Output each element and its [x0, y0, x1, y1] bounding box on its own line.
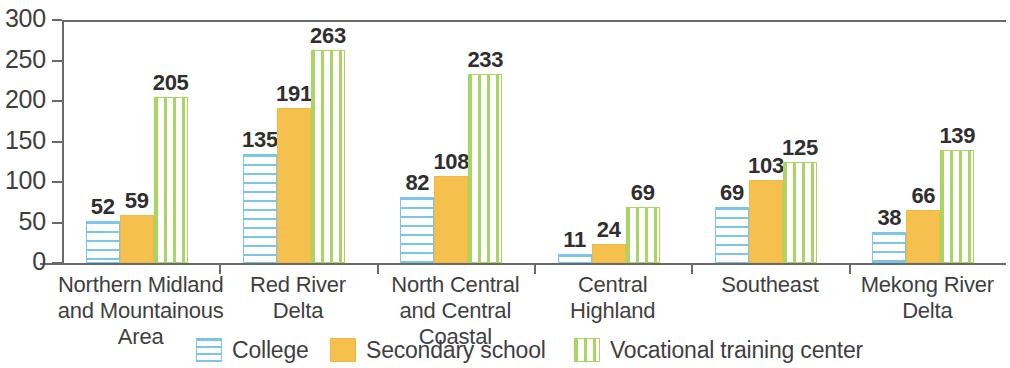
legend-label-college: College — [232, 337, 309, 364]
y-tick-label-200: 200 — [0, 85, 46, 114]
grouped-bar-chart: 300250200150100500 525920513519126382108… — [0, 0, 1010, 368]
bar-vocational-group-0 — [154, 97, 188, 263]
x-axis-line — [40, 263, 1006, 265]
category-label-5: Mekong River Delta — [835, 272, 1010, 324]
bar-secondary-group-1 — [277, 108, 311, 263]
college-swatch-icon — [196, 338, 222, 362]
bar-college-group-3 — [558, 254, 592, 263]
bar-college-group-5 — [872, 232, 906, 263]
bar-secondary-group-5 — [906, 210, 940, 263]
y-tick-250 — [52, 60, 62, 62]
y-tick-300 — [52, 19, 62, 21]
bar-vocational-group-3 — [626, 207, 660, 263]
bar-value-vocational-group-2: 233 — [458, 47, 512, 73]
bar-vocational-group-5 — [940, 150, 974, 263]
bar-value-vocational-group-1: 263 — [301, 23, 355, 49]
bar-college-group-2 — [400, 197, 434, 263]
chart-legend: CollegeSecondary schoolVocational traini… — [0, 336, 1010, 368]
bar-college-group-4 — [715, 207, 749, 263]
legend-item-secondary[interactable]: Secondary school — [330, 336, 546, 364]
bar-value-vocational-group-3: 69 — [616, 180, 670, 206]
y-tick-50 — [52, 222, 62, 224]
y-tick-200 — [52, 100, 62, 102]
y-tick-label-300: 300 — [0, 4, 46, 33]
y-tick-label-0: 0 — [0, 247, 46, 276]
bar-college-group-1 — [243, 154, 277, 263]
y-tick-0 — [52, 262, 62, 264]
bar-college-group-0 — [86, 221, 120, 263]
legend-item-college[interactable]: College — [196, 336, 309, 364]
bar-value-vocational-group-5: 139 — [930, 123, 984, 149]
vocational-swatch-icon — [574, 338, 600, 362]
bar-value-vocational-group-0: 205 — [144, 70, 198, 96]
bar-vocational-group-4 — [783, 162, 817, 263]
legend-item-vocational[interactable]: Vocational training center — [574, 336, 863, 364]
y-tick-100 — [52, 181, 62, 183]
y-tick-label-50: 50 — [0, 207, 46, 236]
y-tick-label-250: 250 — [0, 45, 46, 74]
bar-secondary-group-3 — [592, 244, 626, 263]
y-tick-150 — [52, 141, 62, 143]
bar-secondary-group-0 — [120, 215, 154, 263]
bar-secondary-group-4 — [749, 180, 783, 263]
secondary-school-swatch-icon — [330, 338, 356, 362]
bar-value-vocational-group-4: 125 — [773, 135, 827, 161]
bar-secondary-group-2 — [434, 176, 468, 263]
plot-area: 5259205135191263821082331124696910312538… — [62, 20, 1006, 263]
y-tick-label-100: 100 — [0, 166, 46, 195]
y-tick-label-150: 150 — [0, 126, 46, 155]
legend-label-secondary: Secondary school — [366, 337, 546, 364]
legend-label-vocational: Vocational training center — [610, 337, 863, 364]
bar-vocational-group-2 — [468, 74, 502, 263]
bar-vocational-group-1 — [311, 50, 345, 263]
